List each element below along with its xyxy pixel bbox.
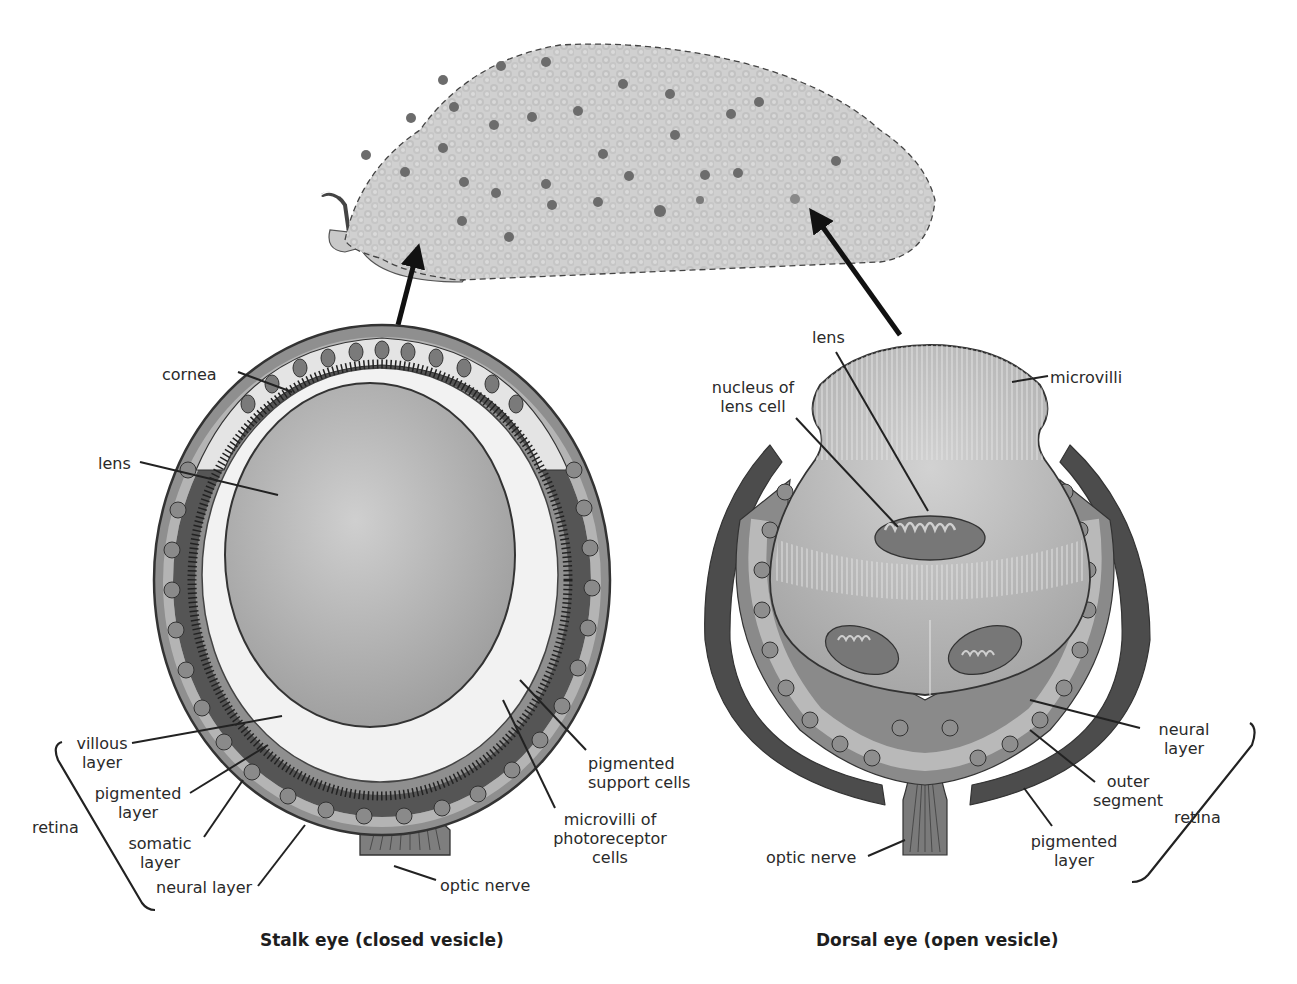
label-microvilli: microvilli	[1050, 368, 1122, 387]
label-microvilli-photoreceptor: microvilli of photoreceptor cells	[540, 810, 680, 867]
label-stalk-optic-nerve: optic nerve	[440, 876, 530, 895]
label-stalk-retina: retina	[32, 818, 79, 837]
label-stalk-pigmented-layer: pigmented layer	[86, 784, 190, 822]
stalk-eye-lens	[225, 383, 515, 727]
label-somatic-layer: somatic layer	[118, 834, 202, 872]
label-dorsal-neural-layer: neural layer	[1144, 720, 1224, 758]
label-cornea: cornea	[162, 365, 217, 384]
caption-stalk-eye: Stalk eye (closed vesicle)	[260, 930, 504, 950]
eye-anatomy-diagram: cornea lens villous layer pigmented laye…	[0, 0, 1297, 984]
label-pigmented-support-cells: pigmented support cells	[588, 754, 690, 792]
label-stalk-lens: lens	[98, 454, 131, 473]
label-outer-segment: outer segment	[1090, 772, 1166, 810]
caption-dorsal-eye: Dorsal eye (open vesicle)	[816, 930, 1059, 950]
label-dorsal-lens: lens	[812, 328, 845, 347]
stalk-eye-illustration	[154, 325, 610, 855]
label-stalk-neural-layer: neural layer	[156, 878, 252, 897]
label-villous-layer: villous layer	[72, 734, 132, 772]
dorsal-eye-illustration	[705, 345, 1150, 855]
label-dorsal-pigmented-layer: pigmented layer	[1024, 832, 1124, 870]
organism-body	[320, 44, 935, 282]
label-dorsal-optic-nerve: optic nerve	[766, 848, 856, 867]
label-nucleus-lens-cell: nucleus of lens cell	[706, 378, 800, 416]
label-dorsal-retina: retina	[1174, 808, 1221, 827]
